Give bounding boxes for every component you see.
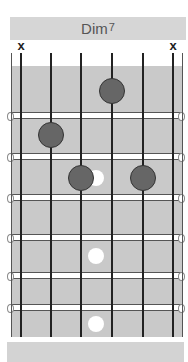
finger-dot-string4-fret1 [99,78,125,104]
fretboard-left-edge [11,53,12,337]
fret-line-3 [11,194,182,201]
footer-banner [7,342,184,362]
string-6 [172,53,174,337]
chord-superscript: 7 [109,21,115,33]
finger-dot-string5-fret3 [130,165,156,191]
chord-title-banner: Dim7 [10,17,186,40]
fret-line-5 [11,272,182,279]
fretboard [11,66,182,337]
string-1 [20,53,22,337]
string-5 [142,53,144,337]
fretboard-right-edge [182,53,183,337]
chord-name: Dim [81,20,108,37]
fret-line-6 [11,304,182,311]
finger-dot-string3-fret3 [68,165,94,191]
finger-dot-string2-fret2 [38,122,64,148]
fret-inlay-icon [88,316,104,332]
fret-line-2 [11,153,182,160]
muted-string-1-icon: x [15,38,27,53]
string-2 [50,53,52,337]
fret-line-1 [11,112,182,119]
string-3 [80,53,82,337]
fret-line-4 [11,234,182,241]
muted-string-6-icon: x [167,38,179,53]
fret-inlay-icon [88,248,104,264]
